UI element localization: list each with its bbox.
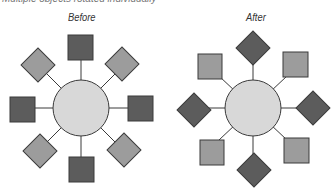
diamond-top-right xyxy=(105,47,139,81)
center-circle xyxy=(225,80,281,136)
diamond-bottom-right xyxy=(107,133,141,167)
diamond-bottom xyxy=(237,153,271,187)
square-top xyxy=(68,35,93,60)
after-diagram xyxy=(177,31,330,187)
square-top-right xyxy=(283,52,308,77)
diamond-right xyxy=(296,91,330,125)
diamond-top xyxy=(236,31,270,65)
diamond-bottom-left xyxy=(23,134,57,168)
square-bottom-right xyxy=(284,138,309,163)
square-bottom xyxy=(69,157,94,182)
diamond-left xyxy=(177,93,211,127)
before-diagram xyxy=(10,35,153,182)
square-top-left xyxy=(198,54,222,79)
center-circle xyxy=(53,80,109,136)
square-left xyxy=(10,97,35,122)
square-right xyxy=(128,96,153,121)
square-bottom-left xyxy=(200,140,224,165)
diagram-canvas xyxy=(0,0,336,195)
